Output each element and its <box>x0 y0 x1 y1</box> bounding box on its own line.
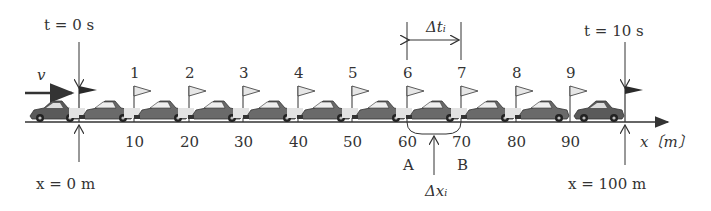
cars <box>30 101 624 122</box>
end-pos-label: x = 100 m <box>568 175 646 193</box>
svg-text:8: 8 <box>512 64 522 82</box>
end-flag-icon <box>625 86 643 94</box>
delta-t-label: Δtᵢ <box>425 18 446 36</box>
svg-text:5: 5 <box>348 64 358 82</box>
svg-text:90: 90 <box>561 133 580 151</box>
svg-text:4: 4 <box>294 64 304 82</box>
svg-text:20: 20 <box>180 133 199 151</box>
svg-text:40: 40 <box>289 133 308 151</box>
svg-text:30: 30 <box>234 133 253 151</box>
svg-text:1: 1 <box>130 64 140 82</box>
axis-label: x〔m〕 <box>640 133 693 151</box>
svg-text:2: 2 <box>185 64 195 82</box>
svg-text:60: 60 <box>398 133 417 151</box>
velocity-label: v <box>37 66 46 84</box>
end-time-label: t = 10 s <box>584 22 644 40</box>
svg-text:6: 6 <box>403 64 413 82</box>
delta-t-bracket: Δtᵢ <box>407 18 461 60</box>
point-b-label: B <box>457 156 468 174</box>
delta-x-label: Δxᵢ <box>424 182 447 200</box>
tick-labels: 10 20 30 40 50 60 70 80 90 <box>125 133 580 151</box>
flag-numbers: 1 2 3 4 5 6 7 8 9 <box>130 64 576 82</box>
svg-text:10: 10 <box>125 133 144 151</box>
svg-text:80: 80 <box>507 133 526 151</box>
svg-text:70: 70 <box>452 133 471 151</box>
svg-text:3: 3 <box>239 64 249 82</box>
start-flag-icon <box>79 86 97 94</box>
svg-text:7: 7 <box>457 64 467 82</box>
motion-diagram: v t = 0 s x = 0 m t = 10 s x = 100 m 1 2… <box>0 0 711 211</box>
start-time-label: t = 0 s <box>44 16 94 34</box>
point-a-label: A <box>402 156 414 174</box>
svg-text:9: 9 <box>566 64 576 82</box>
svg-text:50: 50 <box>343 133 362 151</box>
start-pos-label: x = 0 m <box>36 175 95 193</box>
